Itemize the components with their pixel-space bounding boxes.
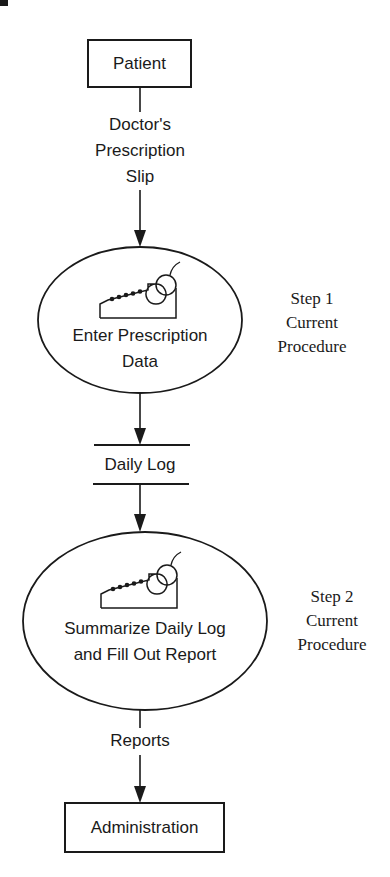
process-1-label-line1: Enter Prescription [40, 323, 240, 349]
entity-label-patient: Patient [88, 51, 191, 77]
arrowhead-icon [134, 514, 146, 532]
step-2-label-line3: Procedure [282, 633, 382, 657]
arrowhead-icon [134, 428, 146, 445]
process-2-label-line1: Summarize Daily Log [35, 616, 255, 642]
entity-label-administration: Administration [65, 815, 224, 841]
flow-label-line2: Prescription [70, 138, 210, 164]
flow-label-reports: Reports [90, 728, 190, 754]
process-2-label-line2: and Fill Out Report [35, 642, 255, 668]
process-1-label-line2: Data [40, 349, 240, 375]
arrowhead-icon [134, 786, 146, 803]
step-1-label-line1: Step 1 [262, 287, 362, 311]
arrowhead-icon [134, 230, 146, 247]
step-1-label-line3: Procedure [262, 335, 362, 359]
data-store-label: Daily Log [90, 452, 190, 478]
step-2-label-line2: Current [282, 609, 382, 633]
flow-label-line1: Doctor's [70, 112, 210, 138]
flow-label-line3: Slip [70, 164, 210, 190]
step-1-label-line2: Current [262, 311, 362, 335]
step-2-label-line1: Step 2 [282, 585, 382, 609]
